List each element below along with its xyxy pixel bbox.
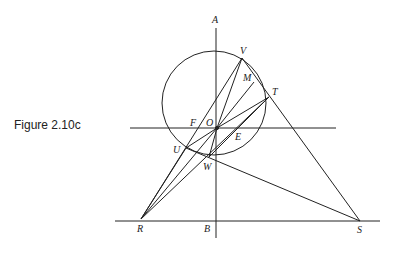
label-A: A: [211, 14, 219, 25]
label-U: U: [173, 144, 181, 155]
line-RT: [141, 97, 269, 219]
line-RU: [141, 148, 186, 219]
label-V: V: [240, 45, 248, 56]
point-O: [215, 126, 218, 129]
geometry-diagram: A V M T F O E U W R B S: [0, 0, 404, 257]
label-F: F: [189, 117, 197, 128]
label-S: S: [357, 224, 362, 235]
line-OV: [217, 58, 242, 128]
label-E: E: [234, 131, 241, 142]
label-M: M: [242, 72, 252, 83]
label-O: O: [206, 117, 213, 128]
label-B: B: [204, 223, 210, 234]
label-W: W: [203, 161, 213, 172]
label-R: R: [136, 223, 143, 234]
label-T: T: [272, 86, 279, 97]
